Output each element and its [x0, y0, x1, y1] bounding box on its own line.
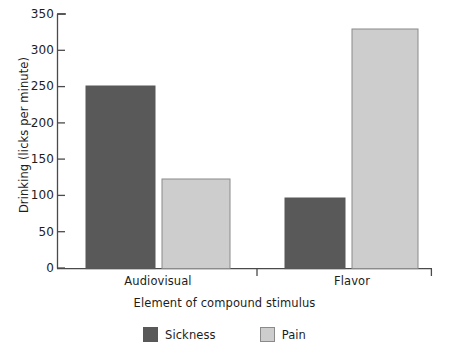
- legend-entry-sickness: Sickness: [143, 327, 216, 342]
- y-tick-label-150: 150: [14, 153, 54, 165]
- legend-swatch-sickness-icon: [143, 327, 158, 342]
- bar-audiovisual-sickness: [86, 86, 155, 269]
- legend-entry-pain: Pain: [260, 327, 306, 342]
- bar-flavor-pain: [352, 29, 418, 269]
- chart-legend: Sickness Pain: [0, 327, 449, 342]
- x-tick-label-audiovisual: Audiovisual: [124, 274, 191, 288]
- y-tick-label-50: 50: [14, 226, 54, 238]
- bar-flavor-sickness: [285, 198, 345, 269]
- legend-swatch-pain-icon: [260, 327, 275, 342]
- x-axis-label: Element of compound stimulus: [0, 296, 449, 310]
- y-tick-label-300: 300: [14, 44, 54, 56]
- y-tick-label-200: 200: [14, 117, 54, 129]
- y-axis-ticks: [58, 14, 66, 268]
- legend-label-pain: Pain: [282, 328, 306, 342]
- bar-chart-figure: Drinking (licks per minute) 350 300 250 …: [0, 0, 449, 353]
- y-tick-label-350: 350: [14, 8, 54, 20]
- x-tick-label-flavor: Flavor: [334, 274, 370, 288]
- bar-audiovisual-pain: [162, 179, 230, 269]
- legend-label-sickness: Sickness: [165, 328, 216, 342]
- y-tick-label-250: 250: [14, 80, 54, 92]
- y-tick-label-100: 100: [14, 189, 54, 201]
- y-tick-label-0: 0: [14, 262, 54, 274]
- y-axis-spine: [57, 14, 66, 269]
